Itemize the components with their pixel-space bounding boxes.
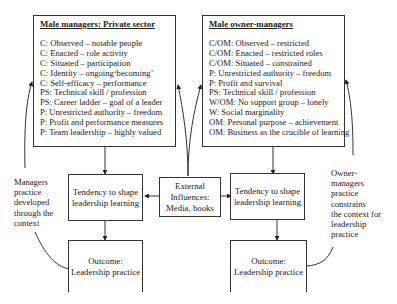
panel-title: Male managers: Private sector xyxy=(40,20,169,30)
note-line: context xyxy=(14,218,53,228)
outcome-line-2: Leadership practice xyxy=(71,267,140,278)
note-line: constrains xyxy=(331,199,381,209)
list-item: OM: Business as the crucible of learning xyxy=(209,128,338,138)
note-line: developed xyxy=(14,197,53,207)
outcome-line-2: Leadership practice xyxy=(234,267,303,278)
managers-practice-note: Managers practice developed through the … xyxy=(14,177,53,228)
external-influences-box: ExternalInfluences:Media, books xyxy=(159,177,221,217)
tendency-line-2: leadership learning xyxy=(234,197,301,208)
note-line: through the xyxy=(14,208,53,218)
list-item: P: Team leadership – highly valued xyxy=(40,128,169,138)
right-outcome-box: Outcome:Leadership practice xyxy=(230,240,307,292)
male-owner-managers-panel: Male owner-managers C/OM: Observed – res… xyxy=(202,15,345,147)
note-line: leadership xyxy=(331,219,381,229)
note-line: Managers xyxy=(14,177,53,187)
note-line: practice xyxy=(14,187,53,197)
owner-managers-practice-note: Owner- managers practice constrains the … xyxy=(331,168,381,239)
external-line-1: External xyxy=(166,181,214,192)
tendency-line-2: leadership learning xyxy=(72,198,139,209)
left-outcome-box: Outcome:Leadership practice xyxy=(68,240,143,292)
outcome-line-1: Outcome: xyxy=(71,256,140,267)
note-line: practice xyxy=(331,229,381,239)
external-line-2: Influences: xyxy=(166,192,214,203)
external-line-3: Media, books xyxy=(166,203,214,214)
note-line: practice xyxy=(331,188,381,198)
male-managers-private-sector-panel: Male managers: Private sector C: Observe… xyxy=(33,15,176,147)
right-tendency-box: Tendency to shapeleadership learning xyxy=(230,173,305,220)
tendency-line-1: Tendency to shape xyxy=(234,186,301,197)
note-line: managers xyxy=(331,178,381,188)
note-line: the context for xyxy=(331,209,381,219)
tendency-line-1: Tendency to shape xyxy=(72,187,139,198)
left-tendency-box: Tendency to shapeleadership learning xyxy=(68,174,143,221)
panel-title: Male owner-managers xyxy=(209,20,338,30)
outcome-line-1: Outcome: xyxy=(234,256,303,267)
note-line: Owner- xyxy=(331,168,381,178)
